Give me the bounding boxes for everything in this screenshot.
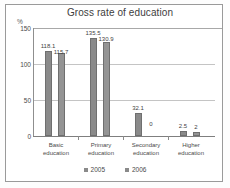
x-label-higher-education: Higher education	[168, 142, 214, 157]
y-axis-unit-label: %	[17, 18, 23, 25]
legend-swatch-icon-2006	[125, 168, 129, 172]
x-tick-2	[123, 136, 124, 140]
bar-higher-2006	[193, 132, 200, 136]
page-title: Gross rate of education	[30, 7, 210, 18]
x-label-secondary-education: Secondary education	[123, 142, 169, 157]
y-tick-50: 50	[11, 97, 31, 104]
x-tick-3	[168, 136, 169, 140]
x-label-secondary-line2: education	[123, 150, 169, 158]
legend-item-2006: 2006	[125, 166, 146, 173]
legend-item-2005: 2005	[84, 166, 105, 173]
x-axis-line	[33, 136, 215, 137]
bar-primary-2006	[103, 42, 110, 136]
legend-label-2006: 2006	[132, 166, 146, 173]
x-label-basic-line1: Basic	[33, 142, 79, 150]
x-label-secondary-line1: Secondary	[123, 142, 169, 150]
bar-label-higher-2006: 2	[184, 124, 208, 130]
legend-swatch-icon-2005	[84, 168, 88, 172]
chart-figure: Gross rate of education % 150 100 50 0 1…	[0, 0, 230, 188]
bar-basic-2005	[45, 51, 52, 136]
chart-legend: 2005 2006	[0, 166, 230, 173]
x-label-primary-line2: education	[78, 150, 124, 158]
bar-label-secondary-2005: 32.1	[126, 105, 150, 111]
bar-primary-2005	[90, 38, 97, 136]
y-axis-tick-labels: 150 100 50 0	[8, 28, 31, 137]
plot-area: 118.1 115.7 135.5 130.9 32.1 0 2.5 2	[34, 28, 215, 136]
legend-label-2005: 2005	[91, 166, 105, 173]
gridline-150	[34, 28, 222, 29]
y-tick-0: 0	[11, 133, 31, 140]
bar-label-primary-2006: 130.9	[94, 36, 118, 42]
bar-label-basic-2006: 115.7	[49, 49, 73, 55]
y-tick-150: 150	[11, 25, 31, 32]
bar-label-secondary-2006: 0	[139, 121, 163, 127]
bar-basic-2006	[58, 53, 65, 136]
x-label-primary-line1: Primary	[78, 142, 124, 150]
x-label-primary-education: Primary education	[78, 142, 124, 157]
x-tick-1	[78, 136, 79, 140]
y-tick-100: 100	[11, 61, 31, 68]
x-label-basic-line2: education	[33, 150, 79, 158]
x-label-higher-line2: education	[168, 150, 214, 158]
x-label-basic-education: Basic education	[33, 142, 79, 157]
bar-higher-2005	[180, 131, 187, 136]
x-label-higher-line1: Higher	[168, 142, 214, 150]
